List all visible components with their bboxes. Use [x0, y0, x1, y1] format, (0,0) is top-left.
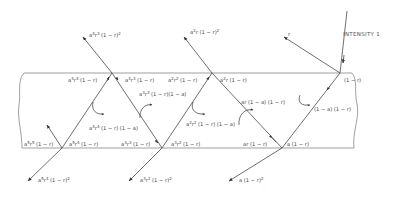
lower-label-a3r2: a3r2 (1 − r)2: [140, 176, 172, 183]
label-bottom-a3r3-left: a3r3 (1 − r): [121, 140, 150, 147]
slab-left-edge: [19, 73, 24, 148]
label-bottom-ar: ar (1 − r): [243, 141, 267, 147]
incident-ray: [340, 11, 347, 73]
label-top-a2r2-left: a2r2 (1 − r): [168, 76, 197, 83]
label-absorb-3: a2r2 (1 − r) (1 − a): [186, 120, 235, 127]
upper-label-a2r: a2r (1 − r)2: [190, 28, 220, 35]
absorption-arrow-5: [93, 102, 104, 114]
intensity-label: INTENSITY 1: [343, 31, 380, 37]
first-reflection-label: r: [288, 31, 291, 37]
incident-ray-arrow: [343, 55, 344, 63]
label-bottom-a3r2-right: a3r2 (1 − r): [171, 140, 200, 147]
absorption-arrow-1: [299, 95, 310, 105]
label-top-a4r4-left: a4r4 (1 − r): [68, 76, 97, 83]
slab-right-edge: [352, 73, 358, 148]
lower-label-a: a (1 − r)2: [239, 176, 264, 183]
label-top-right: (1 − r): [344, 77, 361, 83]
label-absorb-1: (1 − a) (1 − r): [314, 106, 351, 112]
arrow-down-1: [327, 86, 330, 90]
emerging-up-ray-1: [184, 37, 212, 73]
label-absorb-4: a3r3 (1 − r)(1 − a): [139, 90, 186, 97]
label-bottom-a5r4-right: a5r4 (1 − r): [69, 140, 98, 147]
absorption-arrow-2: [239, 110, 253, 125]
label-bottom-a5r5-left: a5r5 (1 − r): [24, 140, 53, 147]
slab-reflection-diagram: INTENSITY 1 r a2r (1 − r)2 a4r3 (1 − r)2…: [0, 0, 400, 199]
emerging-up-ray-2: [83, 37, 112, 73]
label-absorb-5: a4r4 (1 − r) (1 − a): [89, 124, 138, 131]
label-bottom-a: a (1 − r): [287, 141, 309, 147]
absorption-arrow-4: [140, 105, 152, 118]
first-reflection-ray: [284, 37, 340, 73]
absorption-arrow-3: [192, 102, 205, 114]
upper-label-a4r3: a4r3 (1 − r)2: [89, 31, 121, 38]
arrow-up-3: [107, 77, 109, 81]
internal-zigzag-ray: [62, 73, 340, 148]
label-top-a2r-right: a2r (1 − r): [220, 76, 247, 83]
label-absorb-2: ar (1 − a) (1 − r): [241, 99, 285, 105]
arrow-up-1: [272, 138, 276, 142]
lower-label-a5r4: a5r4 (1 − r)2: [38, 176, 70, 183]
label-top-a4r3-right: a4r3 (1 − r): [125, 76, 154, 83]
